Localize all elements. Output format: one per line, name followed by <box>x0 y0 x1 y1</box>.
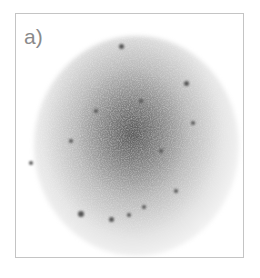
figure-panel: a) <box>15 13 244 258</box>
spot <box>191 121 195 125</box>
spot <box>69 139 73 143</box>
spot <box>78 211 84 217</box>
panel-label: a) <box>24 26 43 47</box>
spot <box>142 205 146 209</box>
spot <box>94 109 98 113</box>
spot <box>184 81 189 86</box>
spot <box>127 213 131 217</box>
spot <box>174 189 178 193</box>
spot <box>29 161 33 165</box>
spot <box>119 44 124 49</box>
spot <box>159 149 163 153</box>
spot <box>139 99 143 103</box>
spot <box>109 217 114 222</box>
speckle-noise <box>16 14 244 258</box>
